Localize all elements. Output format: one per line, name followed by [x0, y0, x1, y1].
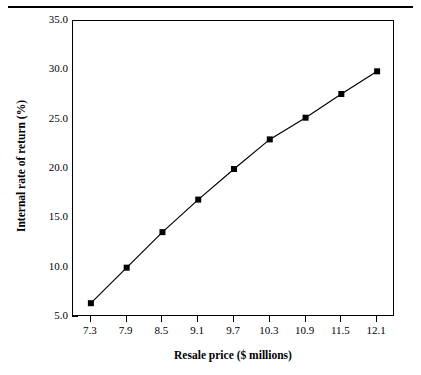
y-tick-label: 15.0 [34, 211, 68, 222]
x-tick-mark [305, 316, 306, 322]
x-tick-mark [340, 316, 341, 322]
data-point-marker [231, 166, 237, 172]
x-axis-title: Resale price ($ millions) [72, 349, 394, 361]
plot-area [72, 20, 394, 316]
plot-inner [73, 21, 393, 315]
x-tick-label: 12.1 [356, 324, 396, 336]
series-line [91, 71, 377, 303]
x-tick-mark [90, 316, 91, 322]
x-tick-label: 8.5 [141, 324, 181, 336]
series-markers [88, 68, 380, 306]
x-tick-label: 10.9 [285, 324, 325, 336]
x-tick-mark [126, 316, 127, 322]
y-axis-title: Internal rate of return (%) [15, 66, 27, 266]
data-point-marker [303, 115, 309, 121]
y-tick-label: 25.0 [34, 113, 68, 124]
chart-figure: 5.010.015.020.025.030.035.0 7.37.98.59.1… [0, 0, 421, 375]
y-tick-label: 35.0 [34, 14, 68, 25]
data-point-marker [267, 136, 273, 142]
x-tick-label: 9.7 [213, 324, 253, 336]
data-point-marker [374, 68, 380, 74]
x-tick-mark [161, 316, 162, 322]
x-tick-label: 11.5 [320, 324, 360, 336]
y-tick-label: 30.0 [34, 63, 68, 74]
x-axis-tick-labels: 7.37.98.59.19.710.310.911.512.1 [72, 324, 394, 340]
x-tick-label: 9.1 [177, 324, 217, 336]
x-axis-tick-marks [72, 316, 394, 323]
y-tick-label: 20.0 [34, 162, 68, 173]
x-tick-mark [197, 316, 198, 322]
data-point-marker [195, 197, 201, 203]
x-tick-mark [269, 316, 270, 322]
figure-top-rule [8, 6, 413, 8]
x-tick-label: 10.3 [249, 324, 289, 336]
x-tick-mark [233, 316, 234, 322]
data-series-internal-rate-of-return [73, 21, 395, 317]
y-tick-label: 5.0 [34, 310, 68, 321]
x-tick-mark [376, 316, 377, 322]
data-point-marker [338, 91, 344, 97]
x-tick-label: 7.3 [70, 324, 110, 336]
data-point-marker [159, 229, 165, 235]
y-axis-tick-labels: 5.010.015.020.025.030.035.0 [30, 20, 68, 316]
x-tick-label: 7.9 [106, 324, 146, 336]
y-tick-label: 10.0 [34, 261, 68, 272]
data-point-marker [124, 265, 130, 271]
data-point-marker [88, 300, 94, 306]
